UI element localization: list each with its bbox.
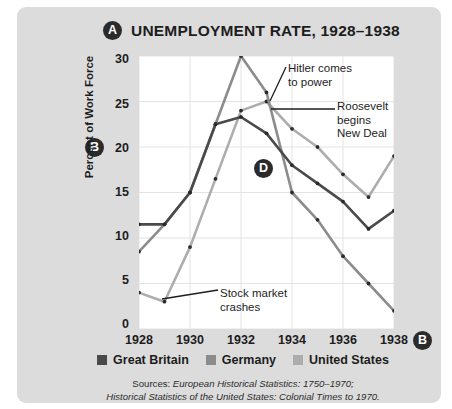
legend-item-germany: Germany <box>206 353 276 367</box>
y-tick-5: 5 <box>101 273 129 287</box>
y-tick-25: 25 <box>101 97 129 111</box>
annotation-roosevelt-new-deal: Roosevelt begins New Deal <box>337 100 388 141</box>
chart-title-row: A UNEMPLOYMENT RATE, 1928–1938 <box>103 21 400 40</box>
x-tick-1932: 1932 <box>219 333 263 347</box>
y-tick-15: 15 <box>101 185 129 199</box>
legend-label-germany: Germany <box>222 353 276 367</box>
legend-label-united-states: United States <box>309 353 389 367</box>
data-point <box>188 191 192 195</box>
chart-legend: Great Britain Germany United States <box>17 353 452 367</box>
legend-swatch-great-britain <box>97 355 107 365</box>
legend-swatch-united-states <box>293 355 303 365</box>
data-point <box>188 245 192 249</box>
annotation-hitler-comes-to-power: Hitler comes to power <box>288 62 352 89</box>
x-tick-1938: 1938 <box>372 333 416 347</box>
legend-swatch-germany <box>206 355 216 365</box>
sources-note: Sources: European Historical Statistics:… <box>17 377 452 403</box>
chart-panel: A UNEMPLOYMENT RATE, 1928–1938 B B Perce… <box>17 7 441 403</box>
y-tick-0: 0 <box>101 317 129 331</box>
data-point <box>341 254 345 258</box>
legend-label-great-britain: Great Britain <box>113 353 189 367</box>
sources-line-1: Sources: European Historical Statistics:… <box>17 377 452 390</box>
y-tick-30: 30 <box>101 52 129 66</box>
data-point <box>239 109 243 113</box>
marker-a-badge: A <box>103 21 122 40</box>
data-point <box>265 131 269 135</box>
data-point <box>341 200 345 204</box>
y-tick-20: 20 <box>101 141 129 155</box>
annotation-stock-market-crashes: Stock market crashes <box>220 287 287 314</box>
data-point <box>367 227 371 231</box>
data-point <box>341 172 345 176</box>
data-point <box>163 300 167 304</box>
legend-item-united-states: United States <box>293 353 389 367</box>
data-point <box>163 222 167 226</box>
page-title: UNEMPLOYMENT RATE, 1928–1938 <box>131 22 400 40</box>
y-axis-title: Percent of Work Force <box>83 37 95 197</box>
sources-prefix: Sources: <box>132 378 173 389</box>
data-point <box>316 145 320 149</box>
x-tick-1928: 1928 <box>117 333 161 347</box>
sources-citation-1: European Historical Statistics: 1750–197… <box>173 378 354 389</box>
y-tick-10: 10 <box>101 229 129 243</box>
x-tick-1934: 1934 <box>270 333 314 347</box>
data-point <box>316 182 320 186</box>
data-point <box>214 122 218 126</box>
data-point <box>290 163 294 167</box>
marker-d-badge: D <box>254 159 273 178</box>
data-point <box>316 218 320 222</box>
data-point <box>367 195 371 199</box>
data-point <box>367 282 371 286</box>
data-point <box>214 177 218 181</box>
x-tick-1930: 1930 <box>168 333 212 347</box>
x-tick-1936: 1936 <box>321 333 365 347</box>
data-point <box>139 222 141 226</box>
chart-figure: A UNEMPLOYMENT RATE, 1928–1938 B B Perce… <box>0 0 452 409</box>
data-point <box>239 115 243 119</box>
data-point <box>290 191 294 195</box>
legend-item-great-britain: Great Britain <box>97 353 189 367</box>
sources-citation-2: Historical Statistics of the United Stat… <box>17 390 452 403</box>
data-point <box>265 91 269 95</box>
data-point <box>290 127 294 131</box>
data-series-group <box>139 56 394 313</box>
